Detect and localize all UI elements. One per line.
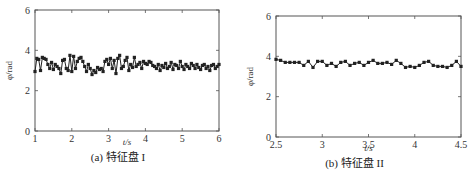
x-tick-label: 3 [320, 139, 325, 150]
data-point-marker [293, 61, 296, 64]
y-tick-label: 0 [25, 126, 30, 137]
data-point-marker [399, 62, 402, 65]
x-tick-label: 2 [69, 133, 74, 144]
data-point-marker [107, 63, 110, 66]
data-point-marker [157, 63, 160, 66]
x-axis-label: t/s [123, 137, 132, 147]
data-point-marker [138, 61, 141, 64]
data-point-marker [109, 57, 112, 60]
x-tick-label: 4 [412, 139, 417, 150]
data-point-marker [39, 69, 42, 72]
data-point-marker [325, 64, 328, 67]
data-point-marker [344, 60, 347, 63]
data-point-marker [131, 66, 134, 69]
x-tick-label: 5 [180, 133, 185, 144]
data-point-marker [427, 60, 430, 63]
data-point-marker [422, 61, 425, 64]
data-point-marker [390, 63, 393, 66]
data-point-marker [44, 58, 47, 61]
data-point-marker [74, 67, 77, 70]
data-point-marker [57, 67, 60, 70]
data-point-marker [321, 60, 324, 63]
data-point-marker [418, 64, 421, 67]
data-point-marker [395, 59, 398, 62]
data-point-marker [362, 64, 365, 67]
data-point-marker [335, 65, 338, 68]
x-tick-label: 4 [143, 133, 148, 144]
data-point-marker [101, 70, 104, 73]
data-point-marker [129, 63, 132, 66]
data-point-marker [330, 62, 333, 65]
data-point-marker [63, 58, 66, 61]
data-point-marker [385, 61, 388, 64]
data-point-marker [79, 56, 82, 59]
data-point-marker [83, 65, 86, 68]
data-point-marker [195, 63, 198, 66]
data-point-marker [118, 54, 121, 57]
x-tick-label: 3 [106, 133, 111, 144]
data-point-marker [208, 69, 211, 72]
data-point-marker [339, 61, 342, 64]
chart-b-plot: 02462.533.544.5t/sφ/rad [236, 0, 473, 171]
data-point-marker [113, 59, 116, 62]
data-point-marker [436, 65, 439, 68]
data-point-marker [446, 66, 449, 69]
data-point-marker [124, 59, 127, 62]
data-point-marker [125, 56, 128, 59]
data-point-marker [52, 68, 55, 71]
data-point-marker [298, 61, 301, 64]
data-point-marker [72, 55, 75, 58]
data-point-marker [307, 60, 310, 63]
data-point-marker [199, 68, 202, 71]
y-axis-label: φ/rad [4, 60, 14, 80]
x-tick-label: 6 [217, 133, 222, 144]
data-point-marker [67, 69, 70, 72]
y-tick-label: 6 [266, 11, 271, 22]
data-point-marker [85, 70, 88, 73]
data-point-marker [404, 66, 407, 69]
chart-a-plot: 0246123456t/sφ/rad [0, 0, 236, 171]
y-tick-label: 2 [266, 91, 271, 102]
data-point-marker [358, 61, 361, 64]
plot-frame [276, 16, 461, 137]
y-tick-label: 6 [25, 5, 30, 16]
data-point-marker [188, 67, 191, 70]
data-point-marker [48, 67, 51, 70]
chart-b: 02462.533.544.5t/sφ/rad (b) 特征盘 II [236, 0, 473, 171]
data-point-marker [116, 57, 119, 60]
data-point-marker [122, 65, 125, 68]
y-tick-label: 2 [25, 85, 30, 96]
data-point-marker [90, 73, 93, 76]
data-point-marker [455, 60, 458, 63]
data-point-marker [450, 64, 453, 67]
plot-frame [35, 10, 219, 131]
data-point-marker [68, 54, 71, 57]
y-tick-label: 4 [266, 51, 271, 62]
data-point-marker [59, 72, 62, 75]
data-point-marker [50, 61, 53, 64]
data-point-marker [170, 61, 173, 64]
data-point-marker [288, 61, 291, 64]
data-point-marker [381, 62, 384, 65]
data-point-marker [162, 66, 165, 69]
data-point-marker [87, 63, 90, 66]
data-point-marker [372, 59, 375, 62]
data-point-marker [192, 64, 195, 67]
data-point-marker [37, 58, 40, 61]
x-tick-label: 1 [33, 133, 38, 144]
x-tick-label: 4.5 [455, 139, 468, 150]
data-markers [274, 58, 462, 69]
data-point-marker [149, 61, 152, 64]
data-point-marker [212, 63, 215, 66]
data-point-marker [146, 63, 149, 66]
data-point-marker [127, 69, 130, 72]
data-point-marker [432, 64, 435, 67]
data-point-marker [133, 56, 136, 59]
data-point-marker [155, 67, 158, 70]
data-point-marker [105, 58, 108, 61]
data-point-marker [89, 67, 92, 70]
data-point-marker [409, 65, 412, 68]
data-point-marker [181, 65, 184, 68]
data-point-marker [274, 58, 277, 61]
data-point-marker [279, 59, 282, 62]
